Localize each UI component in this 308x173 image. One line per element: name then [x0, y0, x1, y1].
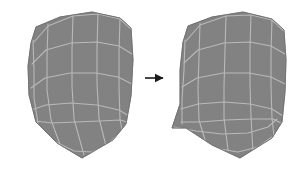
mesh-transformation-figure: [0, 0, 308, 173]
figure-canvas: [0, 0, 308, 173]
